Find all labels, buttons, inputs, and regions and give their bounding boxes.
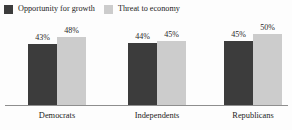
legend-label: Threat to economy <box>118 4 180 14</box>
bar-wrap: 45% <box>224 20 253 105</box>
bar-group-bars: 43% 48% <box>14 20 100 105</box>
bar-opportunity-for-growth[interactable] <box>28 44 57 105</box>
legend-label: Opportunity for growth <box>18 4 95 14</box>
category-label-republicans: Republicans <box>210 111 292 120</box>
legend-item-threat-to-economy[interactable]: Threat to economy <box>104 2 180 16</box>
bar-threat-to-economy[interactable] <box>57 37 86 105</box>
legend-item-opportunity-for-growth[interactable]: Opportunity for growth <box>4 2 95 16</box>
legend-swatch-icon <box>4 5 13 14</box>
bar-opportunity-for-growth[interactable] <box>224 41 253 105</box>
bar-group-bars: 44% 45% <box>114 20 200 105</box>
category-label-democrats: Democrats <box>14 111 100 120</box>
bar-threat-to-economy[interactable] <box>157 41 186 105</box>
bar-wrap: 50% <box>253 20 282 105</box>
bar-value-label: 48% <box>52 26 92 35</box>
bar-group-republicans: 45% 50% Republicans <box>210 20 292 105</box>
bar-opportunity-for-growth[interactable] <box>128 43 157 105</box>
legend-swatch-icon <box>104 5 113 14</box>
bar-value-label: 50% <box>248 23 288 32</box>
bar-group-democrats: 43% 48% Democrats <box>14 20 100 105</box>
bar-group-independents: 44% 45% Independents <box>114 20 200 105</box>
bar-chart: Opportunity for growth Threat to economy… <box>0 0 292 130</box>
bar-threat-to-economy[interactable] <box>253 34 282 105</box>
plot-area: 43% 48% Democrats 44% 45% <box>0 20 292 130</box>
category-label-independents: Independents <box>114 111 200 120</box>
x-axis-baseline <box>5 105 288 106</box>
bar-group-bars: 45% 50% <box>210 20 292 105</box>
chart-legend: Opportunity for growth Threat to economy <box>0 0 292 20</box>
bar-wrap: 48% <box>57 20 86 105</box>
bar-value-label: 45% <box>152 30 192 39</box>
bar-wrap: 45% <box>157 20 186 105</box>
